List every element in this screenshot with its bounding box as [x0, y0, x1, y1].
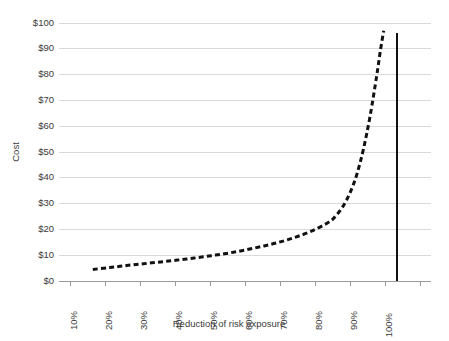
x-tick-label: 20% [103, 310, 114, 330]
y-tick-label: $20 [38, 223, 54, 234]
cost-curve-series [93, 31, 384, 270]
y-tick-label: $0 [43, 275, 54, 286]
y-tick-label: $90 [38, 42, 54, 53]
y-tick-label: $60 [38, 120, 54, 131]
y-tick-label: $70 [38, 94, 54, 105]
y-tick-label: $30 [38, 197, 54, 208]
x-tick-label: 100% [383, 312, 394, 337]
x-axis-tickmarks [70, 281, 420, 286]
chart-svg: $100 $90 $80 $70 $60 $50 $40 $30 $20 $10… [0, 0, 449, 341]
y-tick-label: $40 [38, 171, 54, 182]
x-axis-title: Reduction of risk exposure [173, 318, 285, 329]
y-tick-label: $10 [38, 249, 54, 260]
x-tick-label: 80% [313, 310, 324, 330]
gridlines [59, 23, 431, 255]
x-tick-label: 10% [68, 310, 79, 330]
x-tick-label: 90% [348, 310, 359, 330]
y-axis-tick-labels: $100 $90 $80 $70 $60 $50 $40 $30 $20 $10… [33, 17, 54, 286]
y-tick-label: $80 [38, 68, 54, 79]
y-axis-title: Cost [10, 142, 21, 162]
y-tick-label: $100 [33, 17, 54, 28]
x-tick-label: 30% [138, 310, 149, 330]
cost-vs-risk-reduction-chart: $100 $90 $80 $70 $60 $50 $40 $30 $20 $10… [0, 0, 449, 341]
y-tick-label: $50 [38, 146, 54, 157]
